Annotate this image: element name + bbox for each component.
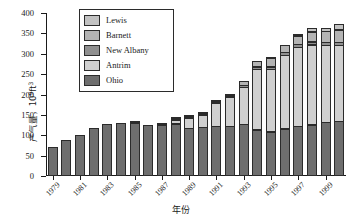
bar: [334, 21, 344, 175]
y-tick-label: 300: [21, 50, 34, 59]
bar-segment: [184, 128, 194, 175]
bar: [252, 59, 262, 175]
bar: [184, 115, 194, 175]
bar-segment: [61, 140, 71, 175]
legend-swatch: [84, 45, 100, 56]
bar: [48, 147, 58, 175]
bar-segment: [266, 69, 276, 132]
x-tick: [189, 176, 190, 180]
bar: [198, 112, 208, 175]
x-tick-label: 1999: [317, 181, 334, 198]
bar: [157, 123, 167, 175]
x-tick-label: 1987: [154, 181, 171, 198]
bar-segment: [334, 121, 344, 175]
bar: [171, 117, 181, 175]
bar-segment: [116, 123, 126, 176]
x-tick: [271, 176, 272, 180]
x-tick: [80, 176, 81, 180]
bar-segment: [334, 45, 344, 122]
bar: [143, 124, 153, 175]
legend-swatch: [84, 15, 100, 26]
y-tick-label: 0: [30, 172, 34, 181]
x-tick-label: 1995: [263, 181, 280, 198]
x-tick: [53, 176, 54, 180]
bar-segment: [211, 126, 221, 175]
bar-segment: [211, 103, 221, 126]
bar: [239, 79, 249, 175]
legend-item: Antrim: [84, 58, 169, 73]
x-tick-label: 1989: [181, 181, 198, 198]
legend-item: Barnett: [84, 28, 169, 43]
bar: [102, 124, 112, 175]
y-tick-label: 200: [21, 90, 34, 99]
y-tick-label: 100: [21, 131, 34, 140]
bar-segment: [225, 126, 235, 175]
bar-segment: [321, 31, 331, 43]
bar-segment: [321, 45, 331, 122]
bar-segment: [280, 129, 290, 176]
y-tick-label: 350: [21, 29, 34, 38]
bar: [61, 140, 71, 175]
x-tick: [298, 176, 299, 180]
legend-label: Barnett: [106, 31, 131, 40]
bar-segment: [130, 123, 140, 176]
bar: [280, 43, 290, 175]
y-tick-label: 250: [21, 70, 34, 79]
bar: [266, 54, 276, 175]
bar: [89, 128, 99, 175]
bar: [225, 92, 235, 175]
bar-segment: [48, 147, 58, 175]
bar-segment: [89, 128, 99, 175]
x-tick-label: 1983: [99, 181, 116, 198]
legend-swatch: [84, 60, 100, 71]
bar-segment: [252, 69, 262, 130]
legend-item: Ohio: [84, 73, 169, 88]
legend-swatch: [84, 75, 100, 86]
bar: [116, 122, 126, 175]
y-tick-label: 50: [26, 151, 35, 160]
x-tick-label: 1997: [290, 181, 307, 198]
bar: [293, 32, 303, 175]
x-tick-label: 1993: [235, 181, 252, 198]
bar: [130, 121, 140, 175]
bar-segment: [307, 125, 317, 176]
y-tick: 0: [41, 176, 46, 177]
bar-segment: [239, 87, 249, 124]
x-tick-label: 1985: [126, 181, 143, 198]
bar-segment: [266, 132, 276, 176]
x-tick: [326, 176, 327, 180]
bar-segment: [184, 118, 194, 128]
bar-segment: [198, 127, 208, 175]
bar-segment: [102, 124, 112, 175]
bar-segment: [307, 45, 317, 125]
bar-segment: [143, 125, 153, 176]
bar-segment: [334, 30, 344, 43]
legend-item: New Albany: [84, 43, 169, 58]
bar: [321, 25, 331, 175]
x-tick: [135, 176, 136, 180]
bar-segment: [171, 124, 181, 176]
y-tick-label: 150: [21, 111, 34, 120]
bar-segment: [252, 130, 262, 176]
y-tick-label: 400: [21, 9, 34, 18]
legend-swatch: [84, 30, 100, 41]
chart-legend: LewisBarnettNew AlbanyAntrimOhio: [79, 9, 174, 92]
bar-segment: [293, 47, 303, 126]
bar-segment: [293, 126, 303, 175]
x-axis-title: 年份: [0, 203, 362, 216]
x-tick-label: 1991: [208, 181, 225, 198]
bar-segment: [225, 97, 235, 126]
bar-segment: [321, 122, 331, 175]
bar-segment: [75, 135, 85, 175]
legend-label: Antrim: [106, 61, 131, 70]
bar: [75, 135, 85, 175]
bar-segment: [307, 32, 317, 42]
bar-segment: [157, 125, 167, 176]
legend-label: Lewis: [106, 16, 127, 25]
legend-label: New Albany: [106, 46, 149, 55]
legend-item: Lewis: [84, 13, 169, 28]
x-tick-label: 1979: [44, 181, 61, 198]
stacked-bar-chart: 产气量，109ft3 050100150200250300350400 1979…: [0, 0, 362, 224]
x-tick: [162, 176, 163, 180]
bar: [211, 100, 221, 175]
